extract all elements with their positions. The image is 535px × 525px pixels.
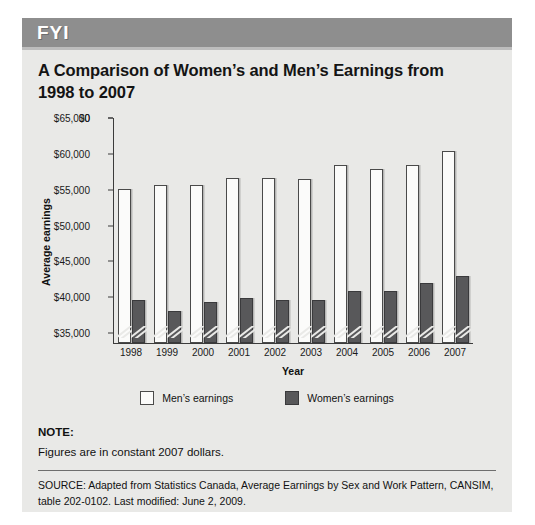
- bar-men-2007: [442, 151, 455, 343]
- bar-men-1998: [118, 189, 131, 343]
- bar-group: [150, 118, 186, 343]
- bar-group: [365, 118, 401, 343]
- y-axis-tick-marks: [108, 118, 113, 344]
- bar-group: [258, 118, 294, 343]
- axis-break-icon: [275, 326, 293, 338]
- divider: [38, 470, 496, 471]
- legend-swatch-icon: [285, 391, 299, 405]
- bar-group: [401, 118, 437, 343]
- bar-chart: Average earnings $65,000$60,000$55,000$5…: [22, 118, 512, 418]
- bar-groups: [114, 118, 473, 343]
- bar-men-2004: [334, 165, 347, 343]
- bar-group: [294, 118, 330, 343]
- legend-label: Women’s earnings: [307, 392, 394, 404]
- axis-break-icon: [455, 326, 473, 338]
- y-axis-tick-label: $60,000: [28, 148, 90, 159]
- bar-women-2002: [276, 300, 289, 343]
- bar-group: [186, 118, 222, 343]
- chart-legend: Men’s earningsWomen’s earnings: [22, 391, 512, 405]
- y-axis-tick-mark: [108, 297, 113, 298]
- legend-label: Men’s earnings: [162, 392, 233, 404]
- bar-women-2004: [348, 291, 361, 343]
- y-axis-tick-label: $40,000: [28, 292, 90, 303]
- x-axis-tick-labels: 1998199920002001200220032004200520062007: [113, 347, 473, 365]
- fyi-panel: FYI A Comparison of Women’s and Men’s Ea…: [22, 18, 512, 512]
- bar-group: [222, 118, 258, 343]
- legend-item: Men’s earnings: [140, 391, 233, 405]
- legend-swatch-icon: [140, 391, 154, 405]
- bar-group: [329, 118, 365, 343]
- y-axis-tick-mark: [108, 153, 113, 154]
- x-axis-tick-label: 2001: [221, 347, 257, 365]
- bar-group: [114, 118, 150, 343]
- fyi-banner-underline: [22, 47, 512, 50]
- axis-break-icon: [203, 326, 221, 338]
- bar-women-2005: [384, 291, 397, 343]
- axis-break-icon: [311, 326, 329, 338]
- x-axis-tick-label: 1998: [113, 347, 149, 365]
- y-axis-tick-mark: [108, 225, 113, 226]
- x-axis-tick-label: 2003: [293, 347, 329, 365]
- legend-item: Women’s earnings: [285, 391, 394, 405]
- x-axis-title: Year: [113, 365, 473, 377]
- bar-men-2005: [370, 169, 383, 343]
- x-axis-tick-label: 2007: [437, 347, 473, 365]
- source-text: SOURCE: Adapted from Statistics Canada, …: [38, 478, 500, 510]
- fyi-banner-label: FYI: [37, 22, 70, 44]
- axis-break-icon: [419, 326, 437, 338]
- y-axis-tick-mark: [108, 261, 113, 262]
- bar-men-2002: [262, 178, 275, 343]
- axis-break-icon: [347, 326, 365, 338]
- y-axis-tick-labels: $65,000$60,000$55,000$50,000$45,000$40,0…: [22, 118, 90, 418]
- bar-men-2006: [406, 165, 419, 343]
- bar-men-2003: [298, 179, 311, 343]
- y-axis-tick-label: $45,000: [28, 256, 90, 267]
- bar-women-2003: [312, 300, 325, 343]
- x-axis-tick-label: 2005: [365, 347, 401, 365]
- bar-men-2001: [226, 178, 239, 343]
- bar-women-2007: [456, 276, 469, 343]
- y-axis-tick-label: $55,000: [28, 184, 90, 195]
- x-axis-tick-label: 2002: [257, 347, 293, 365]
- x-axis-tick-label: 2006: [401, 347, 437, 365]
- bar-group: [437, 118, 473, 343]
- bar-women-1998: [132, 300, 145, 343]
- figure-title: A Comparison of Women’s and Men’s Earnin…: [38, 60, 458, 104]
- y-axis-tick-mark: [108, 189, 113, 190]
- axis-break-icon: [131, 326, 149, 338]
- bar-women-1999: [168, 311, 181, 343]
- y-axis-tick-mark: [108, 333, 113, 334]
- y-axis-tick-label: $35,000: [28, 328, 90, 339]
- x-axis-tick-label: 2000: [185, 347, 221, 365]
- note-heading: NOTE:: [38, 426, 74, 438]
- y-axis-tick-label: $50,000: [28, 220, 90, 231]
- bar-women-2006: [420, 283, 433, 343]
- x-axis-tick-label: 2004: [329, 347, 365, 365]
- y-axis-tick-mark: [108, 118, 113, 119]
- y-axis-tick-label: $0: [28, 113, 90, 124]
- bar-men-1999: [154, 185, 167, 343]
- axis-break-icon: [383, 326, 401, 338]
- figure-page: FYI A Comparison of Women’s and Men’s Ea…: [0, 0, 535, 525]
- bar-women-2000: [204, 302, 217, 343]
- plot-area: [113, 118, 473, 344]
- x-axis-tick-label: 1999: [149, 347, 185, 365]
- fyi-banner: FYI: [22, 18, 512, 47]
- bar-men-2000: [190, 185, 203, 343]
- axis-break-icon: [167, 326, 185, 338]
- bar-women-2001: [240, 298, 253, 343]
- note-body: Figures are in constant 2007 dollars.: [38, 446, 478, 458]
- axis-break-icon: [239, 326, 257, 338]
